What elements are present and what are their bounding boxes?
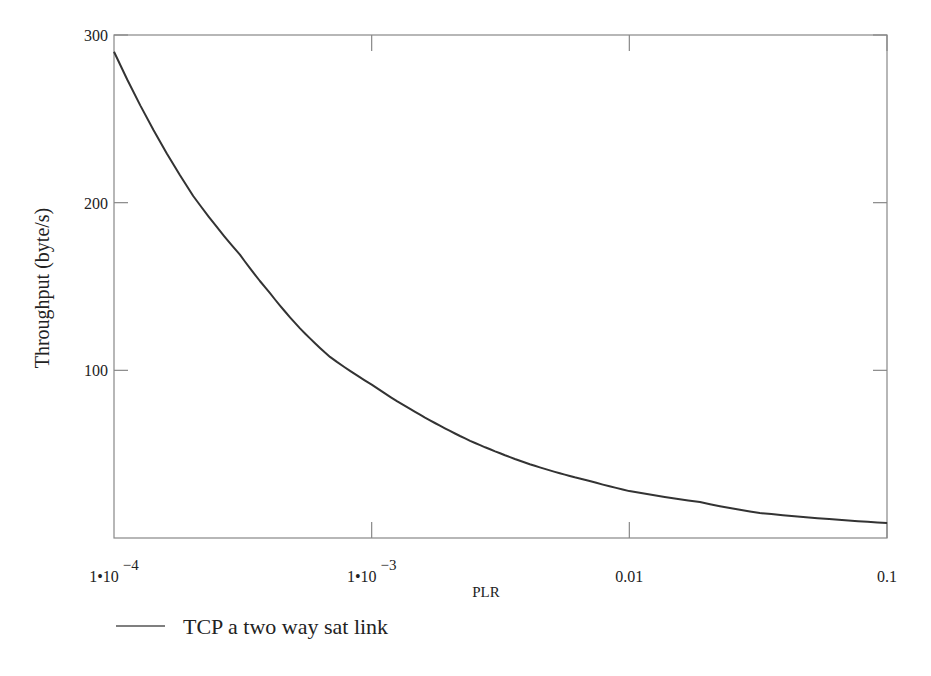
x-tick-label: 1•10−3 <box>347 557 397 585</box>
x-axis-ticks: 1•10−41•10−30.010.1 <box>89 35 897 585</box>
y-axis-ticks: 100200300 <box>84 27 887 379</box>
series-layer <box>114 52 887 523</box>
legend-label: TCP a two way sat link <box>183 614 388 639</box>
plot-border <box>114 35 887 538</box>
x-tick-label: 1•10−4 <box>89 557 139 585</box>
chart: 100200300 1•10−41•10−30.010.1 Throughput… <box>0 0 931 676</box>
x-axis-title: PLR <box>472 584 500 600</box>
legend: TCP a two way sat link <box>116 614 388 639</box>
plot-frame <box>114 35 887 538</box>
y-tick-label: 300 <box>84 27 108 44</box>
y-tick-label: 200 <box>84 195 108 212</box>
y-axis-title: Throughput (byte/s) <box>31 208 54 369</box>
series-line <box>114 52 887 523</box>
y-tick-label: 100 <box>84 362 108 379</box>
x-tick-label: 0.1 <box>877 568 897 585</box>
x-tick-label: 0.01 <box>615 568 643 585</box>
